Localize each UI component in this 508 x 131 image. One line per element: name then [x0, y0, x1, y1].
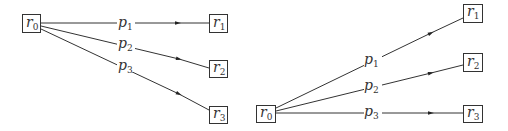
diagram-canvas: p1 p2 p3 r0 r1 r2 r3: [0, 0, 508, 131]
edge-label-p1: p1: [117, 14, 135, 32]
svg-text:p1: p1: [364, 51, 379, 69]
svg-text:p2: p2: [364, 77, 379, 95]
node-r0: r0: [257, 104, 276, 123]
node-r3: r3: [464, 104, 483, 123]
svg-text:p3: p3: [364, 103, 379, 121]
node-r2: r2: [210, 59, 228, 78]
svg-text:p2: p2: [118, 35, 133, 53]
right-diagram: p1 p2 p3 r0 r1 r2 r3: [257, 3, 483, 123]
node-r1: r1: [210, 14, 228, 33]
node-r0: r0: [23, 14, 41, 33]
left-diagram: p1 p2 p3 r0 r1 r2 r3: [23, 14, 228, 124]
node-r2: r2: [464, 53, 483, 72]
edge-label-p2: p2: [117, 35, 135, 53]
node-r3: r3: [210, 105, 228, 124]
edge-label-p3: p3: [117, 57, 135, 75]
edge-label-p3: p3: [364, 103, 382, 121]
edge-label-p2: p2: [364, 77, 382, 95]
node-r1: r1: [464, 3, 483, 23]
edge-label-p1: p1: [364, 51, 382, 69]
